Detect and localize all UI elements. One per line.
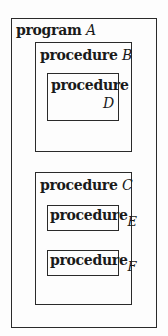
- program-a-label: program A: [16, 23, 96, 37]
- procedure-f-keyword: procedure: [50, 252, 128, 268]
- procedure-d-keyword: procedure: [51, 77, 129, 93]
- procedure-e-name: E: [128, 214, 137, 229]
- procedure-d-name: D: [103, 96, 114, 110]
- procedure-f-name: F: [128, 259, 137, 274]
- procedure-e-keyword: procedure: [50, 207, 128, 223]
- procedure-c-keyword: procedure: [40, 177, 118, 193]
- procedure-f-label: procedureF: [50, 253, 136, 267]
- procedure-b-keyword: procedure: [40, 47, 118, 63]
- procedure-b-name: B: [122, 47, 132, 63]
- procedure-e-label: procedureE: [50, 208, 137, 222]
- procedure-d-label: procedure: [51, 78, 129, 92]
- procedure-c-label: procedure C: [40, 178, 133, 192]
- procedure-b-label: procedure B: [40, 48, 132, 62]
- procedure-c-name: C: [122, 177, 132, 193]
- program-name: A: [86, 22, 96, 38]
- program-keyword: program: [16, 22, 81, 38]
